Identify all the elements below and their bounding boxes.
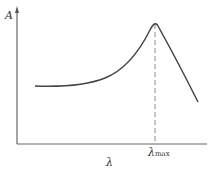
lambda-max-main: λ xyxy=(148,146,155,159)
absorbance-spectrum-plot xyxy=(0,0,212,171)
lambda-max-label: λmax xyxy=(148,147,170,160)
x-axis-label: λ xyxy=(106,157,113,168)
absorbance-curve xyxy=(35,24,198,102)
y-axis-arrow-icon xyxy=(15,6,19,13)
lambda-max-subscript: max xyxy=(155,150,170,158)
y-axis-label: A xyxy=(5,10,13,21)
